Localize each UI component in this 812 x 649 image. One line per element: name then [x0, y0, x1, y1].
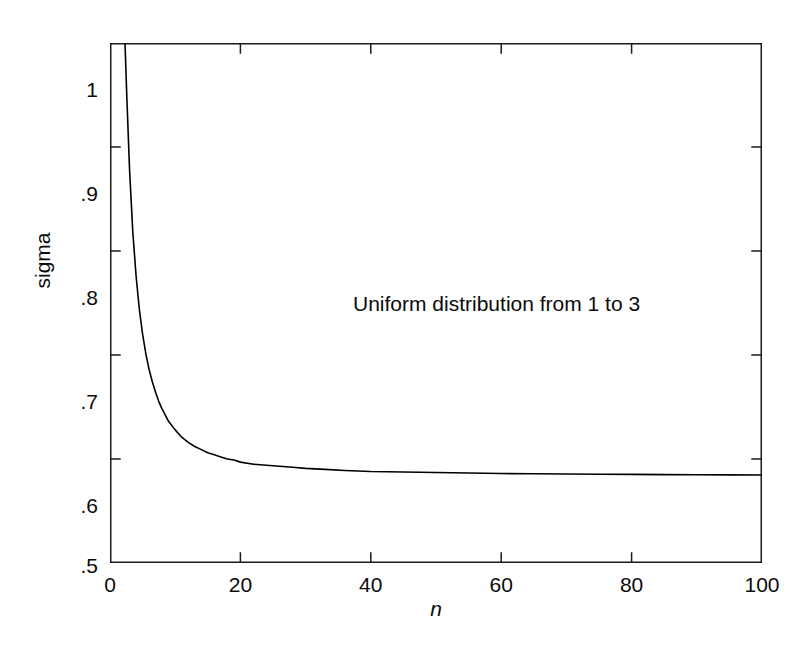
y-tick-label: .6: [80, 495, 98, 516]
x-tick-label: 0: [104, 574, 116, 595]
x-tick-label: 20: [229, 574, 252, 595]
x-tick-label: 40: [359, 574, 382, 595]
y-tick-label: .5: [80, 555, 98, 576]
sigma-vs-n-curve: [125, 43, 762, 475]
plot-area: Uniform distribution from 1 to 3: [110, 43, 762, 563]
y-tick-label: .9: [80, 183, 98, 204]
y-axis-title: sigma: [32, 231, 53, 291]
y-tick-label: .7: [80, 391, 98, 412]
y-tick-label: 1: [86, 79, 98, 100]
figure-canvas: 1 .9 .8 .7 .6 .5 0 20 40 60 80 100 sigma…: [0, 0, 812, 649]
x-axis-title: n: [110, 598, 762, 619]
y-tick-label: .8: [80, 287, 98, 308]
x-tick-label: 60: [490, 574, 513, 595]
x-tick-label: 80: [620, 574, 643, 595]
plot-annotation-text: Uniform distribution from 1 to 3: [353, 293, 640, 314]
x-tick-label: 100: [744, 574, 779, 595]
y-axis-tick-labels: 1 .9 .8 .7 .6 .5: [56, 43, 98, 563]
